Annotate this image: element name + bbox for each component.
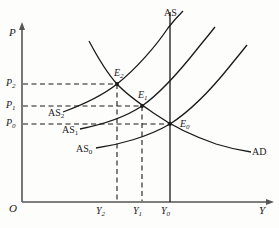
equilibrium-label-e2: E2 [114, 68, 124, 78]
curve-label-as2-text: AS [48, 107, 61, 118]
curve-label-as: AS [164, 8, 177, 18]
y-axis-arrow [19, 22, 25, 30]
price-tick-p0-subscript: 0 [12, 122, 16, 130]
price-tick-p0: P0 [6, 118, 16, 128]
price-tick-p2-subscript: 2 [12, 82, 16, 90]
x-axis-label: Y [259, 205, 265, 216]
curve-label-as1-text: AS [62, 124, 75, 135]
output-tick-y1: Y1 [133, 206, 142, 216]
curve-label-as0-subscript: 0 [89, 148, 93, 156]
curve-label-as0-text: AS [76, 143, 89, 154]
curve-label-as2: AS2 [48, 108, 64, 118]
curve-label-ad: AD [252, 147, 266, 157]
output-tick-y2-subscript: 2 [102, 210, 106, 218]
price-tick-p1: P1 [6, 100, 16, 110]
curve-label-as1: AS1 [62, 125, 78, 135]
equilibrium-point-e0 [168, 122, 172, 126]
output-tick-y1-subscript: 1 [139, 210, 143, 218]
diagram-canvas [0, 0, 279, 228]
equilibrium-label-e0-subscript: 0 [186, 123, 190, 131]
curve-label-as1-subscript: 1 [75, 129, 79, 137]
curve-label-as2-subscript: 2 [61, 112, 65, 120]
equilibrium-label-e0: E0 [180, 119, 190, 129]
price-tick-p2: P2 [6, 78, 16, 88]
equilibrium-point-e2 [115, 82, 119, 86]
equilibrium-label-e1-subscript: 1 [144, 94, 148, 102]
price-tick-p1-subscript: 1 [12, 104, 16, 112]
output-tick-y0-subscript: 0 [167, 210, 171, 218]
equilibrium-point-e1 [140, 104, 144, 108]
output-tick-y0: Y0 [161, 206, 170, 216]
curve-label-as0: AS0 [76, 144, 92, 154]
output-tick-y2: Y2 [96, 206, 105, 216]
x-axis-arrow [266, 199, 274, 205]
output-tick-y0-text: Y [161, 205, 167, 216]
output-tick-y2-text: Y [96, 205, 102, 216]
y-axis-label: P [9, 27, 16, 38]
origin-label: O [9, 203, 17, 214]
as1-curve [80, 27, 215, 129]
as-ad-diagram: P Y O P2 P1 P0 Y2 Y1 Y0 AS AS2 AS1 AS0 A… [0, 0, 279, 228]
output-tick-y1-text: Y [133, 205, 139, 216]
equilibrium-label-e2-subscript: 2 [120, 72, 124, 80]
as0-curve [96, 45, 247, 148]
equilibrium-label-e1: E1 [138, 90, 148, 100]
as2-curve [63, 11, 183, 112]
